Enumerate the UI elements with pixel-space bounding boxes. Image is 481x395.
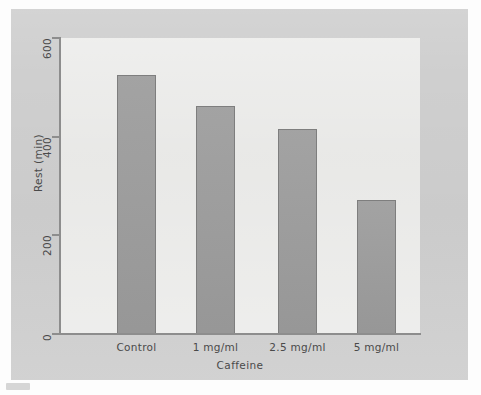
x-axis-tick-label-2: 1 mg/ml bbox=[171, 341, 261, 353]
y-axis-tick-600 bbox=[52, 37, 60, 39]
y-axis-tick-label-wrap-200: 200 bbox=[13, 229, 47, 241]
x-axis-spine bbox=[59, 333, 421, 335]
bar-1 bbox=[117, 75, 156, 334]
y-axis-tick-0 bbox=[52, 333, 60, 335]
x-axis-tick-label-4: 5 mg/ml bbox=[332, 341, 422, 353]
y-axis-spine bbox=[59, 37, 61, 335]
bar-2 bbox=[196, 106, 235, 334]
bar-4 bbox=[357, 200, 396, 334]
y-axis-tick-label-wrap-600: 600 bbox=[13, 32, 47, 44]
y-axis-tick-label-wrap-0: 0 bbox=[13, 328, 47, 340]
y-axis-tick-label-0: 0 bbox=[41, 334, 53, 341]
y-axis-tick-label-200: 200 bbox=[41, 235, 53, 256]
figure-panel: 0200400600 Rest (min) Control1 mg/ml2.5 … bbox=[11, 9, 468, 380]
figure-scan-page: 0200400600 Rest (min) Control1 mg/ml2.5 … bbox=[0, 0, 481, 395]
x-axis-tick-label-3: 2.5 mg/ml bbox=[253, 341, 343, 353]
x-axis-tick-label-1: Control bbox=[92, 341, 182, 353]
y-axis-tick-400 bbox=[52, 136, 60, 138]
bar-3 bbox=[278, 129, 317, 334]
plot-area bbox=[60, 38, 420, 334]
y-axis-tick-200 bbox=[52, 234, 60, 236]
y-axis-tick-label-600: 600 bbox=[41, 38, 53, 59]
y-axis-title: Rest (min) bbox=[32, 118, 44, 208]
x-axis-title: Caffeine bbox=[60, 359, 420, 371]
scan-artifact bbox=[6, 383, 30, 390]
